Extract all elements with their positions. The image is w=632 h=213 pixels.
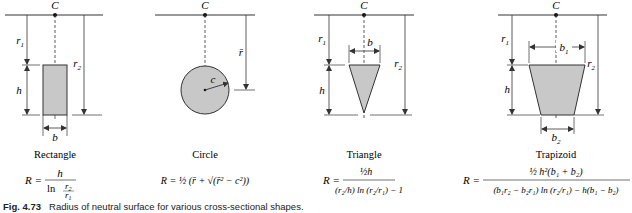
svg-text:r1: r1 bbox=[501, 32, 509, 47]
formula-triangle: R = ½h (r₂/h) ln (r₂/r₁) − 1 bbox=[322, 166, 403, 195]
r1-label: r1 bbox=[16, 34, 24, 49]
r-bar-label: r̄ bbox=[239, 46, 244, 58]
caption-text: Radius of neutral surface for various cr… bbox=[49, 201, 304, 212]
shape-name-rectangle: Rectangle bbox=[34, 149, 76, 160]
svg-text:(b₁r₂ − b₂r₁) ln (r₂/r₁) − h(b: (b₁r₂ − b₂r₁) ln (r₂/r₁) − h(b₁ − b₂) bbox=[493, 185, 618, 195]
figure-caption: Fig. 4.73Radius of neutral surface for v… bbox=[3, 201, 304, 212]
center-label: C bbox=[552, 0, 560, 11]
trapezoid-shape bbox=[529, 65, 585, 115]
shape-name-circle: Circle bbox=[192, 149, 218, 160]
b-label: b bbox=[52, 131, 58, 143]
svg-text:½ h²(b₁ + b₂): ½ h²(b₁ + b₂) bbox=[529, 166, 583, 178]
svg-text:h: h bbox=[319, 84, 325, 96]
triangle-diagram: C r1 r2 h b Triangle R = ½h (r₂/h) ln (r… bbox=[314, 0, 414, 195]
svg-text:h: h bbox=[57, 167, 63, 179]
trapezoid-diagram: C r1 r2 h b1 b2 Trapizoid R = ½ h²(b₁ + … bbox=[462, 0, 630, 195]
center-label: C bbox=[360, 0, 368, 11]
svg-text:r2: r2 bbox=[394, 57, 402, 72]
c-label: c bbox=[211, 73, 216, 85]
diagram: C r1 r2 h b Rectangle R = h ln r2 bbox=[0, 0, 632, 200]
svg-text:h: h bbox=[505, 83, 511, 95]
r2-label: r2 bbox=[73, 57, 81, 72]
triangle-shape bbox=[349, 65, 380, 113]
circle-diagram: C c r̄ Circle R = ½ (r̄ + √(r̄² − c²)) bbox=[155, 0, 255, 187]
figure-number: Fig. 4.73 bbox=[3, 201, 41, 212]
svg-text:(r₂/h) ln (r₂/r₁) − 1: (r₂/h) ln (r₂/r₁) − 1 bbox=[335, 185, 403, 195]
center-label: C bbox=[51, 0, 59, 11]
formula-rectangle: R = h ln r2 r1 bbox=[24, 167, 76, 200]
formula-circle: R = ½ (r̄ + √(r̄² − c²)) bbox=[160, 175, 250, 187]
svg-text:ln: ln bbox=[47, 183, 56, 194]
shape-name-trapezoid: Trapizoid bbox=[536, 149, 577, 160]
formula-trapezoid: R = ½ h²(b₁ + b₂) (b₁r₂ − b₂r₁) ln (r₂/r… bbox=[462, 166, 630, 195]
center-label: C bbox=[201, 0, 209, 11]
svg-text:½h: ½h bbox=[360, 166, 373, 177]
rectangle-shape bbox=[43, 65, 67, 115]
svg-text:R =: R = bbox=[462, 174, 480, 186]
svg-text:R =: R = bbox=[24, 174, 42, 186]
svg-text:r2: r2 bbox=[587, 57, 595, 72]
rectangle-diagram: C r1 r2 h b Rectangle R = h ln r2 bbox=[5, 0, 103, 200]
svg-text:b2: b2 bbox=[552, 131, 562, 146]
svg-text:b: b bbox=[367, 36, 373, 48]
h-label: h bbox=[16, 84, 22, 96]
shape-name-triangle: Triangle bbox=[346, 149, 382, 160]
svg-text:r1: r1 bbox=[318, 32, 326, 47]
